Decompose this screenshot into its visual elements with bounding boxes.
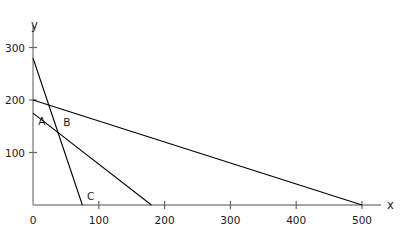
x-tick-label: 300 xyxy=(210,215,250,226)
data-lines-group xyxy=(33,58,362,205)
x-tick-label: 100 xyxy=(79,215,119,226)
x-tick-label: 0 xyxy=(13,215,53,226)
point-label-c: C xyxy=(87,191,94,202)
data-line xyxy=(33,58,82,205)
x-tick-label: 200 xyxy=(145,215,185,226)
data-line xyxy=(33,100,362,205)
x-tick-label: 400 xyxy=(276,215,316,226)
y-tick-label: 300 xyxy=(0,43,25,54)
point-label-b: B xyxy=(63,117,70,128)
x-tick-label: 500 xyxy=(342,215,382,226)
y-axis-title: y xyxy=(31,20,38,32)
x-axis-title: x xyxy=(387,200,394,212)
plot-area xyxy=(0,0,405,234)
chart-figure: 100200300 0100200300400500 ABC y x xyxy=(0,0,405,234)
point-label-a: A xyxy=(38,116,45,127)
y-tick-label: 200 xyxy=(0,95,25,106)
y-tick-label: 100 xyxy=(0,148,25,159)
